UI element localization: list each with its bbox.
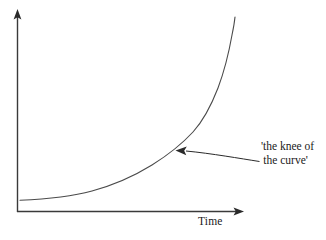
annotation-line-2: the curve' — [261, 153, 314, 167]
figure-container: Time 'the knee of the curve' — [0, 0, 326, 240]
exponential-curve — [20, 17, 235, 200]
annotation-label: 'the knee of the curve' — [261, 139, 314, 167]
x-axis-label: Time — [198, 215, 223, 227]
annotation-line-1: 'the knee of — [261, 139, 314, 153]
exponential-curve-chart — [0, 0, 326, 240]
data-series-exponential — [20, 17, 235, 200]
annotation-leader-line — [186, 151, 260, 162]
y-axis — [14, 9, 22, 212]
annotation-arrow — [176, 146, 260, 161]
arrow-left-icon — [176, 146, 187, 155]
